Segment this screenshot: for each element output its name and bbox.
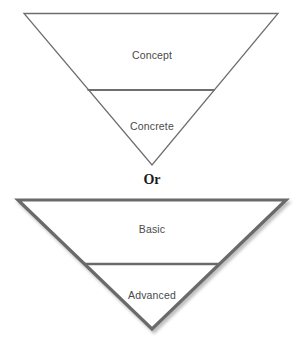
funnel-top-segment-1-label: Concept [132, 49, 172, 62]
connector-or-label: Or [143, 172, 160, 188]
funnel-bottom-segment-1-label: Basic [139, 223, 165, 236]
funnel-bottom [18, 200, 286, 329]
funnel-top-segment-2-label: Concrete [130, 120, 174, 133]
funnel-bottom-segment-2-label: Advanced [128, 289, 176, 302]
funnel-top [24, 14, 278, 166]
inverted-triangle-diagram: Concept Concrete Or Basic Advanced [0, 0, 302, 337]
